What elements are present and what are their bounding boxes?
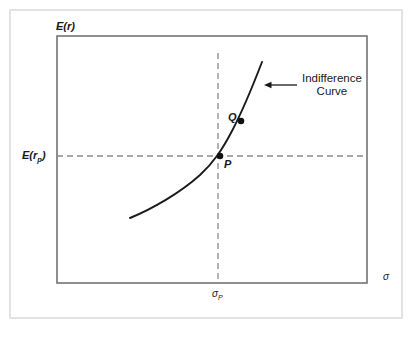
figure-root: E(r) E(rp) σ σP P Q Indifference Curve xyxy=(0,0,415,337)
erp-close-paren: ) xyxy=(42,149,46,161)
annotation-line-2: Curve xyxy=(302,85,362,98)
x-axis-label-sigma: σ xyxy=(383,271,389,282)
sigmap-subscript: P xyxy=(218,294,223,301)
indifference-curve-chart xyxy=(0,0,415,337)
point-label-Q: Q xyxy=(228,111,237,123)
point-marker-P xyxy=(217,153,224,160)
annotation-indifference-curve: Indifference Curve xyxy=(302,72,362,98)
y-axis-tick-label-erp: E(rp) xyxy=(22,149,46,165)
y-axis-label: E(r) xyxy=(56,20,75,32)
indifference-curve-path xyxy=(130,62,262,218)
x-axis-tick-label-sigma-p: σP xyxy=(212,288,223,302)
annotation-arrow-icon xyxy=(264,82,297,88)
erp-main: E(r xyxy=(22,149,37,161)
point-marker-Q xyxy=(238,118,245,125)
annotation-line-1: Indifference xyxy=(302,72,362,85)
point-label-P: P xyxy=(224,158,231,170)
